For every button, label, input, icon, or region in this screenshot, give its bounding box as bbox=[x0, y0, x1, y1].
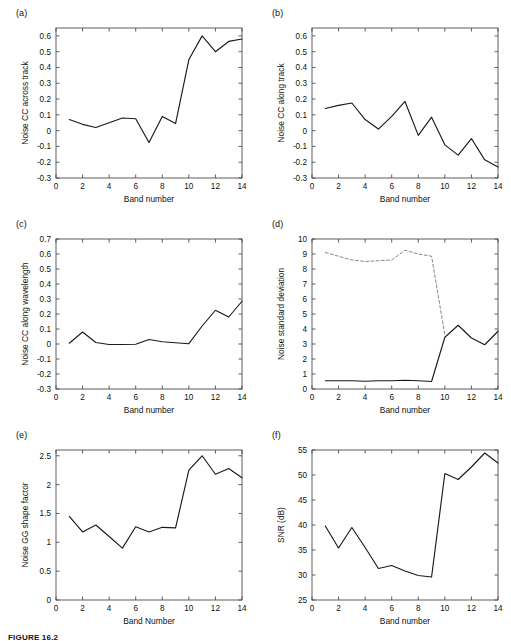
y-tick-label: 1.5 bbox=[40, 509, 52, 518]
y-tick-label: 1 bbox=[46, 538, 51, 547]
y-tick-label: 50 bbox=[298, 471, 308, 480]
x-tick-label: 0 bbox=[54, 182, 59, 191]
y-tick-label: -0.3 bbox=[37, 385, 52, 394]
y-tick-label: 25 bbox=[298, 596, 308, 605]
y-tick-label: 1 bbox=[302, 370, 307, 379]
x-tick-label: 8 bbox=[160, 604, 165, 613]
x-axis-title: Band Number bbox=[123, 616, 175, 626]
data-line bbox=[325, 325, 498, 381]
x-axis-title: Band number bbox=[380, 616, 430, 626]
x-tick-label: 14 bbox=[237, 393, 247, 402]
y-tick-label: 0.2 bbox=[296, 95, 308, 104]
plot-frame bbox=[56, 239, 242, 389]
x-tick-label: 14 bbox=[237, 182, 247, 191]
x-tick-label: 6 bbox=[133, 182, 138, 191]
x-tick-label: 2 bbox=[336, 182, 341, 191]
plot-frame bbox=[312, 450, 498, 600]
plot-frame bbox=[312, 28, 498, 178]
x-tick-label: 12 bbox=[467, 393, 477, 402]
x-tick-label: 12 bbox=[467, 182, 477, 191]
x-tick-label: 10 bbox=[184, 393, 194, 402]
plot-d: 02468101214012345678910Band numberNoise … bbox=[256, 211, 511, 421]
y-tick-label: 0.7 bbox=[40, 235, 52, 244]
x-tick-label: 8 bbox=[416, 604, 421, 613]
x-tick-label: 12 bbox=[211, 182, 221, 191]
y-tick-label: 0.3 bbox=[40, 295, 52, 304]
y-tick-label: 0.4 bbox=[40, 280, 52, 289]
panel-e: (e) 0246810121400.511.522.5Band NumberNo… bbox=[0, 422, 255, 632]
y-tick-label: -0.2 bbox=[37, 158, 52, 167]
y-tick-label: 5 bbox=[302, 310, 307, 319]
x-tick-label: 8 bbox=[160, 393, 165, 402]
data-line bbox=[325, 453, 498, 577]
panel-b: (b) 02468101214-0.3-0.2-0.100.10.20.30.4… bbox=[256, 0, 511, 210]
x-tick-label: 0 bbox=[310, 393, 315, 402]
y-tick-label: 0.3 bbox=[296, 79, 308, 88]
x-axis-title: Band number bbox=[380, 405, 430, 415]
plot-e: 0246810121400.511.522.5Band NumberNoise … bbox=[0, 422, 255, 632]
plot-f: 0246810121425303540455055Band numberSNR … bbox=[256, 422, 511, 632]
y-tick-label: 0.5 bbox=[296, 48, 308, 57]
y-tick-label: 0.1 bbox=[40, 325, 52, 334]
x-tick-label: 8 bbox=[160, 182, 165, 191]
x-tick-label: 14 bbox=[237, 604, 247, 613]
y-tick-label: 55 bbox=[298, 446, 308, 455]
y-tick-label: -0.2 bbox=[37, 370, 52, 379]
x-tick-label: 0 bbox=[310, 604, 315, 613]
y-tick-label: 2.5 bbox=[40, 452, 52, 461]
y-tick-label: 0.2 bbox=[40, 310, 52, 319]
x-axis-title: Band number bbox=[124, 405, 174, 415]
data-line bbox=[69, 301, 242, 344]
data-line bbox=[69, 456, 242, 548]
y-axis-title: Noise CC along wavelength bbox=[20, 262, 30, 366]
data-line bbox=[69, 36, 242, 143]
panel-a: (a) 02468101214-0.3-0.2-0.100.10.20.30.4… bbox=[0, 0, 255, 210]
x-tick-label: 14 bbox=[493, 393, 503, 402]
y-tick-label: 45 bbox=[298, 496, 308, 505]
x-tick-label: 6 bbox=[389, 393, 394, 402]
y-tick-label: -0.3 bbox=[293, 174, 308, 183]
y-tick-label: 0.5 bbox=[40, 48, 52, 57]
y-tick-label: 0.4 bbox=[296, 63, 308, 72]
x-tick-label: 6 bbox=[389, 604, 394, 613]
y-tick-label: -0.1 bbox=[293, 142, 308, 151]
y-tick-label: -0.3 bbox=[37, 174, 52, 183]
y-axis-title: Noise CC across track bbox=[20, 61, 30, 145]
x-tick-label: 2 bbox=[336, 393, 341, 402]
x-tick-label: 6 bbox=[133, 604, 138, 613]
plot-c: 02468101214-0.3-0.2-0.100.10.20.30.40.50… bbox=[0, 211, 255, 421]
x-tick-label: 4 bbox=[363, 182, 368, 191]
x-tick-label: 4 bbox=[107, 393, 112, 402]
y-tick-label: 6 bbox=[302, 295, 307, 304]
y-tick-label: 10 bbox=[298, 235, 308, 244]
figure-caption: FIGURE 16.2 bbox=[8, 632, 58, 641]
y-axis-title: Noise CC along track bbox=[276, 63, 286, 143]
y-tick-label: 8 bbox=[302, 265, 307, 274]
y-tick-label: 0.2 bbox=[40, 95, 52, 104]
y-tick-label: 0.5 bbox=[40, 567, 52, 576]
y-tick-label: 0.6 bbox=[40, 250, 52, 259]
y-tick-label: 3 bbox=[302, 340, 307, 349]
panel-f: (f) 0246810121425303540455055Band number… bbox=[256, 422, 511, 632]
y-tick-label: 0.1 bbox=[40, 111, 52, 120]
y-tick-label: 4 bbox=[302, 325, 307, 334]
data-line-dashed bbox=[325, 250, 445, 335]
x-tick-label: 10 bbox=[184, 604, 194, 613]
y-tick-label: 9 bbox=[302, 250, 307, 259]
y-tick-label: 0.6 bbox=[40, 32, 52, 41]
x-tick-label: 2 bbox=[80, 182, 85, 191]
x-axis-title: Band number bbox=[380, 194, 430, 204]
x-tick-label: 0 bbox=[310, 182, 315, 191]
plot-frame bbox=[312, 239, 498, 389]
y-tick-label: 0 bbox=[46, 340, 51, 349]
x-tick-label: 10 bbox=[184, 182, 194, 191]
y-axis-title: SNR (dB) bbox=[276, 507, 286, 543]
x-tick-label: 2 bbox=[80, 604, 85, 613]
y-tick-label: 0 bbox=[302, 127, 307, 136]
x-tick-label: 2 bbox=[80, 393, 85, 402]
y-tick-label: 0.3 bbox=[40, 79, 52, 88]
data-line bbox=[325, 101, 498, 167]
y-tick-label: 2 bbox=[302, 355, 307, 364]
y-tick-label: 0 bbox=[46, 596, 51, 605]
x-tick-label: 0 bbox=[54, 604, 59, 613]
